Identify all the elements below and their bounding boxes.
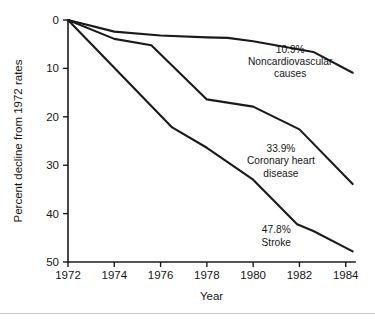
annotation-noncardiovascular: 10.9%Noncardiovascularcauses	[248, 44, 333, 79]
chart-series	[68, 20, 353, 251]
y-tick-label: 30	[46, 159, 59, 171]
y-tick-label: 0	[53, 14, 59, 26]
chart-figure: 010203040501972197419761978198019821984 …	[0, 0, 375, 321]
chart-axis-titles: YearPercent decline from 1972 rates	[12, 59, 223, 302]
y-tick-label: 20	[46, 111, 59, 123]
annotation-line: 10.9%	[276, 44, 305, 55]
x-tick-label: 1976	[148, 269, 174, 281]
annotation-line: 33.9%	[266, 143, 295, 154]
annotation-line: disease	[263, 168, 298, 179]
y-tick-label: 10	[46, 62, 59, 74]
annotation-line: Noncardiovascular	[248, 56, 333, 67]
annotation-line: Stroke	[262, 237, 292, 248]
annotation-line: 47.8%	[262, 224, 291, 235]
chart-tick-labels: 010203040501972197419761978198019821984	[46, 14, 359, 281]
annotation-line: causes	[274, 68, 306, 79]
x-tick-label: 1972	[55, 269, 81, 281]
annotation-coronary-heart-disease: 33.9%Coronary heartdisease	[247, 143, 315, 178]
x-tick-label: 1980	[240, 269, 266, 281]
footer-divider-left	[0, 313, 375, 314]
series-line-stroke	[68, 20, 353, 251]
annotation-line: Coronary heart	[247, 155, 315, 166]
y-axis-title: Percent decline from 1972 rates	[12, 59, 24, 222]
x-axis-title: Year	[200, 290, 223, 302]
x-tick-label: 1978	[194, 269, 220, 281]
line-chart: 010203040501972197419761978198019821984 …	[0, 0, 375, 321]
y-tick-label: 50	[46, 256, 59, 268]
x-tick-label: 1974	[101, 269, 127, 281]
x-tick-label: 1984	[333, 269, 359, 281]
x-tick-label: 1982	[287, 269, 313, 281]
y-tick-label: 40	[46, 208, 59, 220]
annotation-stroke: 47.8%Stroke	[262, 224, 292, 247]
